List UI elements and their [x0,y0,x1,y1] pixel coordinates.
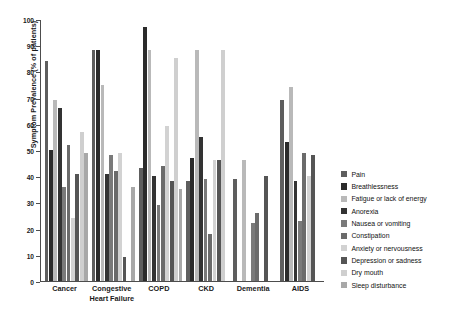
legend-item: Dry mouth [341,267,450,279]
bar [221,50,225,281]
y-tick-label: 70 [27,95,34,102]
y-tick-label: 30 [27,200,34,207]
bar [53,100,57,281]
bar [285,142,289,281]
legend-item: Sleep disturbance [341,279,450,291]
x-axis-label-line: AIDS [277,284,324,294]
x-axis-line [40,281,324,282]
bar [161,166,165,281]
y-tick-label: 60 [27,121,34,128]
chart-legend: PainBreathlessnessFatigue or lack of ene… [341,168,450,291]
bar [251,223,255,281]
x-axis-labels: CancerCongestiveHeart FailureCOPDCKDDeme… [41,284,325,303]
y-tick-label: 100 [23,17,34,24]
legend-item: Breathlessness [341,180,450,192]
bar [101,85,105,282]
y-tick-label: 0 [30,279,34,286]
legend-item-label: Constipation [351,232,389,239]
legend-color-swatch [341,282,347,288]
legend-item: Constipation [341,230,450,242]
bar [118,153,122,281]
legend-item: Anorexia [341,205,450,217]
legend-color-swatch [341,233,347,239]
x-axis-label: CongestiveHeart Failure [88,284,135,303]
bar [123,257,127,281]
bar [311,155,315,281]
bar [174,58,178,281]
x-axis-label: CKD [182,284,229,303]
y-tick [36,125,40,126]
y-tick [36,46,40,47]
y-tick [36,151,40,152]
legend-item-label: Pain [351,171,365,178]
y-tick-label: 80 [27,69,34,76]
bar [190,158,194,281]
x-axis-label: AIDS [277,284,324,303]
y-tick [36,230,40,231]
bar [109,155,113,281]
y-axis-title: Symptom Prevalence (% of patients) [29,0,38,170]
bar [298,221,302,281]
x-axis-label-line: COPD [135,284,182,294]
bar [289,87,293,281]
y-tick [36,282,40,283]
x-axis-label: Cancer [41,284,88,303]
y-tick [36,177,40,178]
legend-color-swatch [341,208,347,214]
bar [45,61,49,281]
bar [208,234,212,281]
legend-color-swatch [341,270,347,276]
bar-group [135,20,182,281]
bar [62,187,66,281]
y-tick [36,203,40,204]
legend-item: Pain [341,168,450,180]
x-axis-label-line: Dementia [230,284,277,294]
y-tick [36,20,40,21]
bar-groups [41,20,324,281]
chart-figure: Symptom Prevalence (% of patients) 01020… [0,0,450,319]
legend-color-swatch [341,171,347,177]
legend-color-swatch [341,183,347,189]
legend-color-swatch [341,245,347,251]
bar [58,108,62,281]
bar [217,160,221,281]
y-tick-label: 20 [27,226,34,233]
bar [157,205,161,281]
bar [186,181,190,281]
legend-item: Anxiety or nervousness [341,242,450,254]
legend-color-swatch [341,220,347,226]
bar [71,218,75,281]
bar [67,145,71,281]
y-tick-label: 90 [27,43,34,50]
legend-item-label: Anorexia [351,208,378,215]
bar [170,181,174,281]
bar [148,50,152,281]
bar [75,174,79,281]
legend-item: Depression or sadness [341,254,450,266]
bar-group [41,20,88,281]
y-tick-label: 10 [27,252,34,259]
bar [195,50,199,281]
bar [264,176,268,281]
bar [96,50,100,281]
bar [165,126,169,281]
bar [152,176,156,281]
bar-group [182,20,229,281]
bar [143,27,147,281]
bar [233,179,237,281]
bar-group [88,20,135,281]
legend-item-label: Sleep disturbance [351,282,406,289]
bar [80,132,84,281]
bar [213,160,217,281]
bar [242,160,246,281]
x-axis-label: Dementia [230,284,277,303]
bar [255,213,259,281]
legend-item-label: Depression or sadness [351,257,421,264]
y-tick [36,99,40,100]
x-axis-label-line: Cancer [41,284,88,294]
legend-item: Fatigue or lack of energy [341,193,450,205]
x-axis-label-line: Heart Failure [88,294,135,304]
bar [294,181,298,281]
plot-area: 0102030405060708090100 [40,20,324,282]
legend-item-label: Breathlessness [351,183,398,190]
